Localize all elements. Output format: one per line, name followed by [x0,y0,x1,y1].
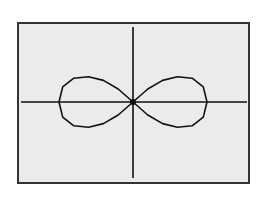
origin-point [130,99,136,105]
lemniscate-plot [0,0,268,206]
